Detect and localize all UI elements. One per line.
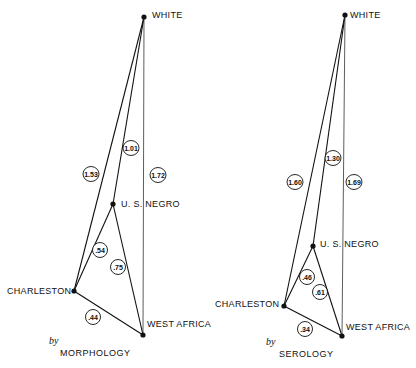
distance-badge-white-us-negro: 1.01 [123,141,139,156]
edge-white-us-negro [313,15,345,246]
serology-diagram: WHITE U. S. NEGRO CHARLESTON WEST AFRICA… [215,10,410,359]
node-charleston [71,288,76,293]
caption-method: MORPHOLOGY [60,348,131,358]
distance-badge-us-negro-west-africa: .75 [111,260,126,275]
distance-badge-white-us-negro: 1.30 [325,151,341,166]
svg-text:1.01: 1.01 [124,145,138,152]
node-west-africa [339,333,344,338]
label-us-negro: U. S. NEGRO [121,199,180,209]
label-west-africa: WEST AFRICA [346,322,410,332]
svg-text:1.53: 1.53 [84,171,98,178]
distance-badge-charleston-west-africa: .44 [86,310,101,325]
edge-white-west-africa [342,15,345,336]
caption-method: SEROLOGY [279,349,334,359]
distance-badge-white-charleston: 1.53 [83,167,99,182]
edge-charleston-west-africa [74,291,143,335]
svg-text:1.30: 1.30 [326,155,340,162]
morphology-diagram: WHITE U. S. NEGRO CHARLESTON WEST AFRICA… [7,10,211,358]
label-charleston: CHARLESTON [215,299,279,309]
edge-white-us-negro [113,17,144,204]
node-white [342,12,347,17]
node-west-africa [140,332,145,337]
caption-by: by [49,335,59,346]
distance-badge-white-charleston: 1.60 [287,175,303,190]
label-us-negro: U. S. NEGRO [320,239,379,249]
svg-text:1.60: 1.60 [288,179,302,186]
svg-text:.44: .44 [88,314,98,321]
node-white [141,14,146,19]
distance-badge-us-negro-west-africa: .61 [313,285,328,300]
label-white: WHITE [350,10,381,20]
distance-badge-white-west-africa: 1.72 [150,168,166,183]
svg-text:.34: .34 [300,326,310,333]
edge-white-west-africa [143,17,144,335]
node-us-negro [310,243,315,248]
distance-badge-charleston-west-africa: .34 [298,322,313,337]
distance-badge-us-negro-charleston: .54 [93,243,108,258]
svg-text:.46: .46 [302,274,312,281]
label-west-africa: WEST AFRICA [147,319,211,329]
label-white: WHITE [152,10,183,20]
distance-diagrams: WHITE U. S. NEGRO CHARLESTON WEST AFRICA… [0,0,416,368]
distance-badge-us-negro-charleston: .46 [300,270,315,285]
svg-text:1.69: 1.69 [347,179,361,186]
svg-text:1.72: 1.72 [151,172,165,179]
distance-badge-white-west-africa: 1.69 [346,175,362,190]
svg-text:.75: .75 [113,264,123,271]
label-charleston: CHARLESTON [7,286,71,296]
node-charleston [281,303,286,308]
svg-text:.54: .54 [95,247,105,254]
caption-by: by [266,336,276,347]
node-us-negro [110,201,115,206]
svg-text:.61: .61 [315,289,325,296]
